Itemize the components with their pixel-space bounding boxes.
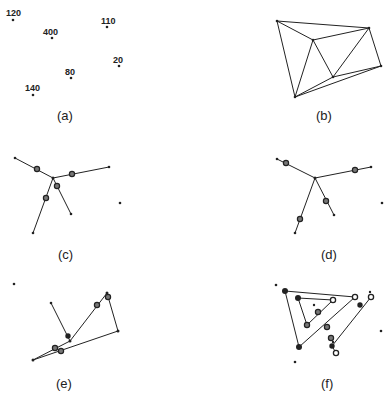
point-label: 110	[101, 16, 116, 26]
point-120	[12, 19, 15, 22]
panel-c: (c)	[14, 157, 122, 262]
panel-f: (f)	[275, 284, 383, 391]
caption-a: (a)	[57, 108, 73, 123]
point-label: 120	[6, 8, 21, 18]
panel-d: (d)	[276, 158, 384, 262]
caption-f: (f)	[321, 376, 333, 391]
caption-d: (d)	[321, 247, 337, 262]
caption-b: (b)	[316, 108, 332, 123]
point-label: 140	[25, 83, 40, 93]
point-label: 20	[113, 55, 123, 65]
point-label: 400	[43, 27, 58, 37]
caption-c: (c)	[58, 247, 73, 262]
figure-canvas: 120 400 110 20 80 140 (a) (b)	[0, 0, 391, 398]
point-110	[106, 26, 109, 29]
panel-b: (b)	[276, 20, 383, 123]
point-400	[51, 37, 54, 40]
point-label: 80	[65, 67, 75, 77]
figure: 120 400 110 20 80 140 (a) (b)	[0, 0, 391, 398]
point-20	[118, 65, 121, 68]
panel-e: (e)	[13, 283, 120, 391]
point-140	[32, 94, 35, 97]
caption-e: (e)	[56, 376, 72, 391]
point-80	[70, 77, 73, 80]
panel-a: 120 400 110 20 80 140 (a)	[6, 8, 123, 123]
